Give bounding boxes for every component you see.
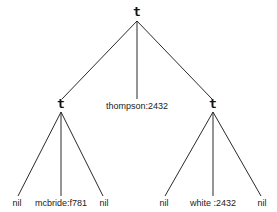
leaf-mcbride: mcbride:f781 [35,198,87,208]
right-subtree-node: t [209,96,217,111]
middle-leaf-thompson: thompson:2432 [106,101,168,111]
left-subtree-node: t [57,96,65,111]
leaf-nil: nil [12,198,21,208]
tree-edge [18,112,61,196]
tree-edge [62,21,137,99]
tree-edge [165,112,213,196]
leaf-nil: nil [99,198,108,208]
tree-edge [137,21,212,99]
leaf-nil: nil [159,198,168,208]
root-node: t [133,4,141,19]
tree-edge [61,112,103,196]
leaf-white: white :2432 [189,198,236,208]
tree-edge [213,112,261,196]
leaf-nil: nil [257,198,266,208]
tree-diagram: t t thompson:2432 t nil mcbride:f781 nil… [0,0,277,212]
